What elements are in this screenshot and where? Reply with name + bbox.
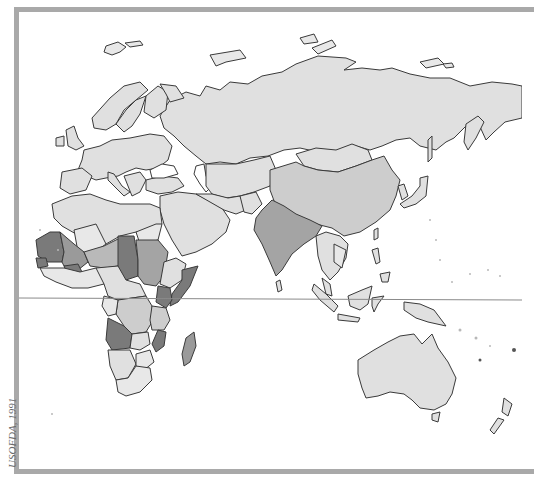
- kenya: [156, 286, 172, 308]
- new-zealand-south: [490, 418, 504, 434]
- mozambique: [152, 330, 166, 352]
- iberia: [60, 168, 92, 194]
- new-siberian-islands: [420, 58, 444, 68]
- arctic-islet: [443, 63, 454, 68]
- afghanistan-pakistan: [240, 192, 262, 214]
- philippines-north: [372, 248, 380, 264]
- australia: [358, 334, 456, 410]
- united-kingdom: [66, 126, 84, 150]
- ireland: [56, 136, 64, 146]
- tanzania: [150, 306, 170, 330]
- novaya-zemlya: [210, 50, 246, 66]
- zambia: [130, 332, 150, 350]
- new-guinea: [404, 302, 446, 326]
- sakhalin: [428, 136, 432, 162]
- madagascar: [182, 332, 196, 366]
- korea: [398, 184, 408, 200]
- sulawesi: [372, 296, 384, 312]
- senegal: [36, 258, 48, 268]
- arctic-island: [125, 41, 143, 47]
- tasmania: [432, 412, 440, 422]
- borneo: [348, 286, 372, 310]
- congo-gabon: [102, 296, 118, 316]
- map-credit: USOFDA, 1991: [6, 398, 18, 468]
- java: [338, 314, 360, 322]
- franz-josef-land: [300, 34, 318, 44]
- turkey: [146, 176, 184, 194]
- sri-lanka: [276, 280, 282, 292]
- new-zealand-north: [502, 398, 512, 416]
- equator-line: [19, 298, 522, 300]
- svalbard: [104, 42, 126, 55]
- philippines-south: [380, 272, 390, 282]
- taiwan: [374, 228, 378, 240]
- west-africa-coast: [40, 268, 106, 288]
